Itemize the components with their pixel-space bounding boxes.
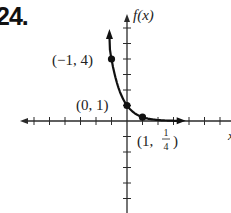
point-label: (1, — [137, 133, 153, 150]
curve-right-arrow-icon — [177, 117, 186, 124]
y-axis-arrow-icon — [124, 14, 130, 22]
curve-up-arrow-icon — [106, 29, 113, 39]
exponential-curve — [109, 36, 179, 121]
point-labels: (−1, 4)(0, 1)(1, 14) — [52, 52, 178, 152]
fraction-denominator: 4 — [164, 141, 169, 152]
x-axis-label: x — [227, 128, 231, 143]
point-label-close: ) — [173, 133, 178, 150]
data-point — [123, 102, 130, 109]
point-label: (0, 1) — [76, 97, 109, 114]
point-label: (−1, 4) — [52, 52, 93, 69]
function-graph: (−1, 4)(0, 1)(1, 14) f(x) x — [0, 0, 231, 213]
x-axis-arrow-icon — [20, 118, 28, 124]
fraction-numerator: 1 — [164, 127, 169, 138]
data-point — [139, 114, 146, 121]
y-axis-label: f(x) — [133, 7, 154, 24]
data-point — [108, 55, 115, 62]
curve — [106, 29, 186, 124]
